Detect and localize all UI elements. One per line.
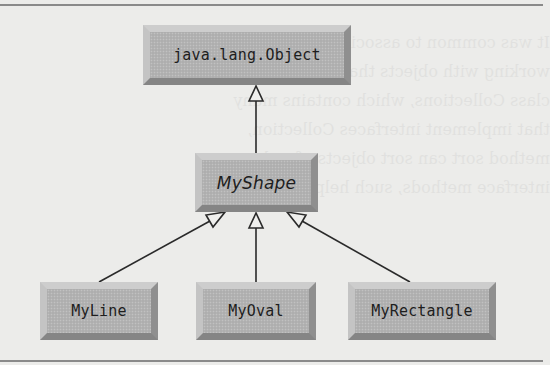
class-label: MyRectangle: [371, 302, 473, 320]
class-box-myoval: MyOval: [196, 282, 316, 340]
generalization-arrow-icon: [249, 213, 263, 228]
abstract-class-label: MyShape: [217, 173, 296, 193]
generalization-arrow-icon: [206, 212, 225, 227]
class-label: MyOval: [228, 302, 283, 320]
class-label: MyLine: [71, 302, 126, 320]
edge-myrect-myshape: [302, 221, 410, 282]
generalization-arrow-icon: [249, 86, 263, 101]
generalization-arrow-icon: [287, 212, 306, 227]
class-box-myline: MyLine: [40, 282, 158, 340]
class-box-java-lang-object: java.lang.Object: [143, 25, 351, 85]
class-box-myrectangle: MyRectangle: [348, 282, 496, 340]
class-box-myshape: MyShape: [195, 153, 318, 212]
edge-myline-myshape: [99, 221, 210, 282]
class-label: java.lang.Object: [173, 46, 321, 64]
